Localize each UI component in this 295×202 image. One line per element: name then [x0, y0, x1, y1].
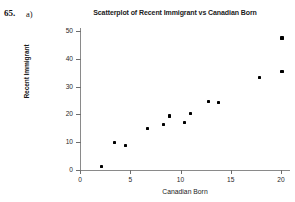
data-point	[207, 100, 210, 103]
x-tick	[231, 170, 232, 174]
figure-container: 65. a) Scatterplot of Recent Immigrant v…	[0, 0, 295, 202]
data-point	[168, 114, 171, 117]
x-tick	[281, 170, 282, 174]
x-tick-label: 20	[271, 176, 291, 183]
y-axis-title: Recent Immigrant	[23, 32, 30, 112]
y-tick	[76, 142, 81, 143]
y-tick-label: 20	[56, 110, 73, 117]
data-point	[162, 123, 165, 126]
y-tick-label: 50	[56, 27, 73, 34]
x-axis-line	[80, 170, 290, 171]
data-point	[124, 144, 127, 147]
plot-area: 05101520 01020304050 Canadian Born Recen…	[0, 0, 295, 202]
data-point	[189, 112, 192, 115]
y-axis-line	[80, 28, 81, 171]
y-tick	[76, 59, 81, 60]
x-axis-title: Canadian Born	[80, 188, 290, 195]
data-point	[113, 141, 116, 144]
y-tick	[76, 87, 81, 88]
data-point	[100, 165, 103, 168]
data-point	[258, 76, 261, 79]
y-tick-label: 40	[56, 55, 73, 62]
x-tick-label: 0	[70, 176, 90, 183]
y-tick-label: 10	[56, 138, 73, 145]
x-tick-label: 5	[120, 176, 140, 183]
data-point	[280, 70, 283, 73]
y-tick	[76, 31, 81, 32]
x-tick	[130, 170, 131, 174]
y-tick	[76, 114, 81, 115]
y-tick	[76, 170, 81, 171]
data-point	[146, 127, 149, 130]
data-point	[183, 121, 186, 124]
data-point	[217, 101, 220, 104]
y-tick-label: 30	[56, 83, 73, 90]
x-tick-label: 15	[221, 176, 241, 183]
y-tick-label: 0	[56, 166, 73, 173]
x-tick	[181, 170, 182, 174]
x-tick-label: 10	[171, 176, 191, 183]
data-point	[280, 36, 283, 39]
